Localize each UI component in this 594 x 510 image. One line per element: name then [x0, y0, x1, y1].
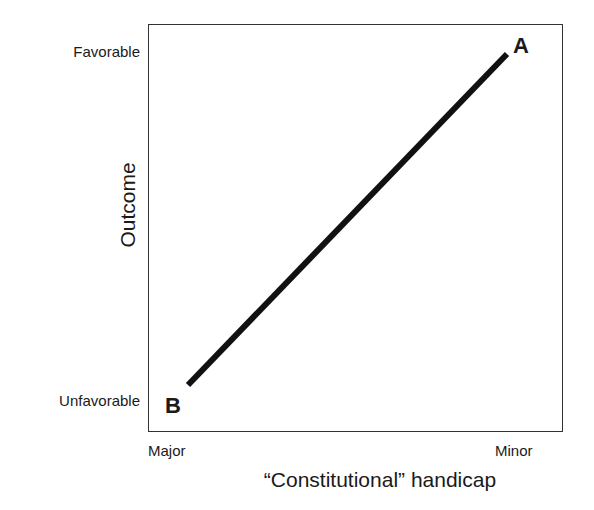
point-b-label: B [165, 393, 181, 419]
x-axis-label: “Constitutional” handicap [200, 468, 560, 492]
y-tick-favorable: Favorable [73, 43, 140, 60]
y-tick-unfavorable: Unfavorable [59, 392, 140, 409]
x-tick-minor: Minor [495, 442, 533, 459]
y-axis-label: Outcome [116, 162, 140, 247]
x-tick-major: Major [148, 442, 186, 459]
point-a-label: A [513, 33, 529, 59]
trend-line [0, 0, 594, 510]
